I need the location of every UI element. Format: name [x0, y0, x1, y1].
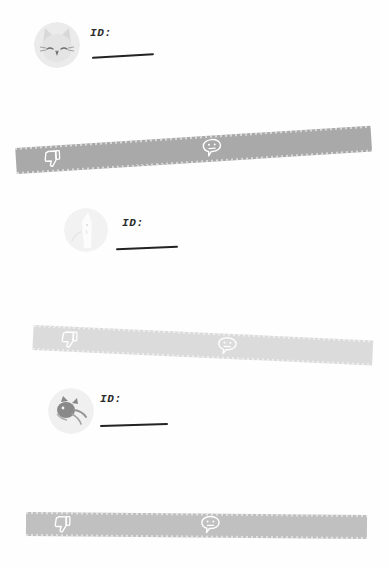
- id-field-group: ID:: [100, 394, 122, 405]
- id-input-blank[interactable]: [100, 423, 168, 427]
- id-label: ID:: [90, 28, 112, 39]
- dark-creature-avatar[interactable]: [48, 388, 94, 434]
- id-label: ID:: [122, 218, 144, 229]
- sad-speech-bubble-icon[interactable]: [201, 138, 223, 160]
- rating-bar[interactable]: [32, 325, 373, 365]
- rating-bar[interactable]: [15, 126, 372, 174]
- id-label: ID:: [100, 394, 122, 405]
- thumbs-down-icon[interactable]: [54, 515, 71, 533]
- form-page: ID:: [0, 0, 389, 568]
- cat-face-avatar[interactable]: [34, 22, 80, 68]
- thumbs-down-icon[interactable]: [61, 330, 79, 349]
- id-field-group: ID:: [122, 218, 144, 229]
- id-field-group: ID:: [90, 28, 112, 39]
- id-input-blank[interactable]: [92, 53, 154, 59]
- thumbs-down-icon[interactable]: [43, 149, 61, 168]
- id-input-blank[interactable]: [116, 246, 178, 251]
- sad-speech-bubble-icon[interactable]: [216, 335, 238, 357]
- sad-speech-bubble-icon[interactable]: [200, 515, 221, 536]
- rating-bar[interactable]: [26, 512, 367, 539]
- cat-ear-avatar[interactable]: [64, 208, 108, 252]
